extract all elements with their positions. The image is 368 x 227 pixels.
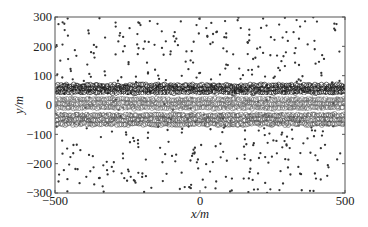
y-axis-label: y/m [12, 96, 26, 116]
y-tick-label: 100 [33, 69, 52, 83]
y-tick-label: 200 [33, 40, 52, 54]
scatter-chart: −300−200−1000100200300−5000500 x/m y/m [0, 0, 368, 227]
y-tick-label: 0 [46, 98, 52, 112]
y-tick-label: −100 [26, 128, 52, 142]
y-tick-label: −200 [26, 157, 52, 171]
x-tick-label: 0 [197, 194, 203, 208]
x-axis-label: x/m [190, 207, 209, 221]
x-tick-label: −500 [42, 194, 68, 208]
x-tick-label: 500 [336, 194, 355, 208]
y-tick-label: 300 [33, 10, 52, 24]
